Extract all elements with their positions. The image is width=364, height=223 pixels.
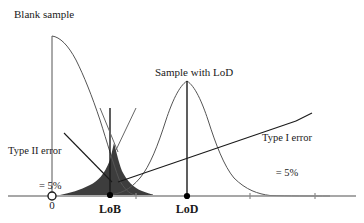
type-ii-error-label-line2: = 5% [8, 180, 61, 192]
axis-label-lob: LoB [89, 202, 131, 217]
type-i-error-label: Type I error = 5% [262, 108, 312, 202]
blank-sample-tail [52, 36, 135, 195]
axis-label-zero: 0 [44, 199, 60, 211]
type-i-error-label-line1: Type I error [262, 132, 312, 144]
blank-sample-label: Blank sample [14, 8, 74, 20]
lob-lod-statistics-figure: Blank sample Sample with LoD Type II err… [0, 0, 364, 223]
lod-point-marker [184, 193, 190, 199]
sample-with-lod-label: Sample with LoD [155, 66, 233, 78]
type-ii-error-leader-line [64, 133, 112, 182]
type-i-error-label-line2: = 5% [262, 167, 312, 179]
shaded-region-leader-line [116, 108, 136, 150]
axis-label-lod: LoD [166, 202, 208, 217]
lob-point-marker [107, 192, 113, 198]
type-ii-error-label-line1: Type II error [8, 145, 61, 157]
shaded-overlap-region [60, 143, 153, 195]
